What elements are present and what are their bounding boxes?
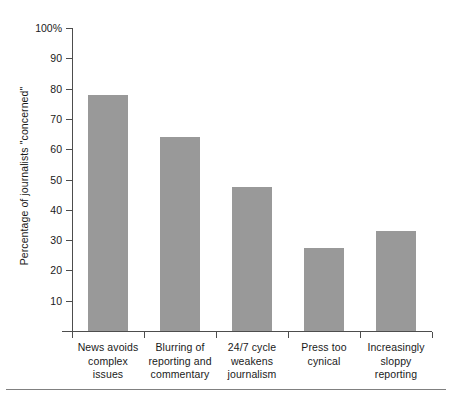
y-axis-tick-label: 10 (6, 296, 62, 307)
y-axis-tick (66, 210, 72, 211)
y-axis-tick (66, 240, 72, 241)
x-axis-tick (288, 332, 289, 338)
x-axis-tick (432, 332, 433, 338)
y-axis-tick-label: 20 (6, 265, 62, 276)
y-axis-line (72, 28, 73, 332)
y-axis-tick (66, 180, 72, 181)
y-axis-tick-label: 80 (6, 84, 62, 95)
y-axis-tick-label: 40 (6, 205, 62, 216)
bar (376, 231, 416, 331)
y-axis-tick (66, 89, 72, 90)
x-axis-line (62, 331, 432, 332)
y-axis-tick-label: 100% (6, 23, 62, 34)
y-axis-tick-label: 70 (6, 114, 62, 125)
bar (304, 248, 344, 331)
bar-chart: Percentage of journalists "concerned" 10… (0, 0, 452, 400)
x-axis-tick (360, 332, 361, 338)
x-axis-category-label: News avoids complex issues (72, 341, 144, 382)
x-axis-category-label: Increasingly sloppy reporting (360, 341, 432, 382)
y-axis-tick-label: 90 (6, 53, 62, 64)
x-axis-tick (72, 332, 73, 338)
bottom-divider (6, 389, 446, 390)
x-axis-category-label: 24/7 cycle weakens journalism (216, 341, 288, 382)
bar (160, 137, 200, 331)
x-axis-tick (216, 332, 217, 338)
y-axis-tick-label: 50 (6, 175, 62, 186)
y-axis-tick (66, 28, 72, 29)
y-axis-tick (66, 58, 72, 59)
y-axis-tick (66, 270, 72, 271)
x-axis-category-label: Blurring of reporting and commentary (144, 341, 216, 382)
y-axis-tick (66, 301, 72, 302)
x-axis-tick (144, 332, 145, 338)
bar (88, 95, 128, 331)
bar (232, 187, 272, 331)
y-axis-tick-label: 60 (6, 144, 62, 155)
y-axis-tick (66, 119, 72, 120)
y-axis-tick (66, 149, 72, 150)
x-axis-category-label: Press too cynical (288, 341, 360, 368)
y-axis-tick-label: 30 (6, 235, 62, 246)
